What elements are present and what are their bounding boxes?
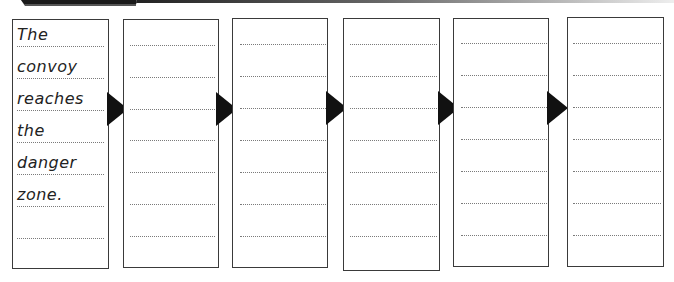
writing-line[interactable]	[17, 174, 104, 175]
frame-1-word-2: convoy	[17, 59, 77, 75]
header-rule	[136, 0, 674, 3]
storyboard-frame-2	[123, 19, 219, 268]
writing-line[interactable]	[17, 110, 104, 111]
writing-line[interactable]	[350, 172, 437, 173]
writing-line[interactable]	[573, 203, 661, 204]
writing-line[interactable]	[350, 108, 437, 109]
frame-1-word-5: danger	[17, 155, 77, 171]
writing-line[interactable]	[573, 139, 661, 140]
writing-line[interactable]	[240, 44, 326, 45]
writing-line[interactable]	[461, 235, 547, 236]
writing-line[interactable]	[17, 142, 104, 143]
storyboard-frame-4	[343, 18, 440, 271]
writing-line[interactable]	[573, 43, 661, 44]
writing-line[interactable]	[573, 171, 661, 172]
writing-line[interactable]	[461, 107, 547, 108]
writing-line[interactable]	[130, 236, 215, 237]
writing-line[interactable]	[130, 140, 215, 141]
writing-line[interactable]	[350, 44, 437, 45]
writing-line[interactable]	[240, 236, 326, 237]
writing-line[interactable]	[240, 108, 326, 109]
writing-line[interactable]	[461, 203, 547, 204]
writing-line[interactable]	[130, 77, 215, 78]
writing-line[interactable]	[240, 204, 326, 205]
writing-line[interactable]	[240, 172, 326, 173]
writing-line[interactable]	[17, 238, 104, 239]
writing-line[interactable]	[130, 172, 215, 173]
right-triangle-arrow-icon	[547, 91, 568, 125]
writing-line[interactable]	[17, 78, 104, 79]
frame-1-word-4: the	[17, 123, 45, 139]
writing-line[interactable]	[240, 76, 326, 77]
writing-line[interactable]	[573, 107, 661, 108]
frame-1-word-1: The	[17, 27, 48, 43]
writing-line[interactable]	[573, 75, 661, 76]
writing-line[interactable]	[461, 171, 547, 172]
writing-line[interactable]	[350, 236, 437, 237]
writing-line[interactable]	[461, 139, 547, 140]
writing-line[interactable]	[130, 204, 215, 205]
storyboard-frame-6	[567, 17, 664, 267]
writing-line[interactable]	[461, 75, 547, 76]
writing-line[interactable]	[461, 43, 547, 44]
frame-1-word-6: zone.	[17, 187, 63, 203]
writing-line[interactable]	[350, 204, 437, 205]
storyboard-frame-3	[232, 18, 328, 268]
frame-1-word-3: reaches	[17, 91, 84, 107]
writing-line[interactable]	[240, 140, 326, 141]
writing-line[interactable]	[573, 235, 661, 236]
writing-line[interactable]	[130, 45, 215, 46]
header-banner-tab	[18, 0, 138, 6]
writing-line[interactable]	[17, 206, 104, 207]
writing-line[interactable]	[350, 140, 437, 141]
writing-line[interactable]	[350, 76, 437, 77]
writing-line[interactable]	[130, 109, 215, 110]
writing-line[interactable]	[17, 46, 104, 47]
storyboard-frame-5	[453, 18, 549, 267]
